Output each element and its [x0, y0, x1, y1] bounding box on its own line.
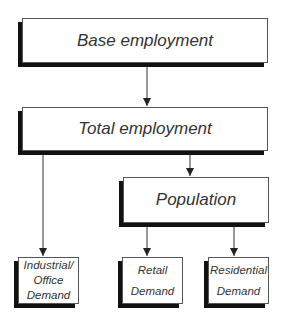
node-base-employment: Base employment — [22, 18, 268, 63]
node-retail-demand: Retail Demand — [122, 257, 183, 304]
node-label-line: Demand — [217, 284, 260, 299]
node-label: Population — [156, 190, 236, 210]
node-label: Total employment — [78, 119, 212, 139]
node-label-line: Retail — [138, 263, 167, 278]
node-label: Base employment — [77, 31, 213, 51]
node-label-line: Demand — [131, 284, 174, 299]
node-industrial-office-demand: Industrial/ Office Demand — [18, 257, 79, 304]
node-population: Population — [123, 177, 269, 223]
node-label-line: Office — [33, 273, 63, 288]
node-residential-demand: Residential Demand — [208, 257, 269, 304]
node-label-line: Industrial/ — [24, 258, 74, 273]
node-label-line: Residential — [210, 263, 267, 278]
node-total-employment: Total employment — [22, 107, 268, 151]
node-label-line: Demand — [27, 288, 70, 303]
